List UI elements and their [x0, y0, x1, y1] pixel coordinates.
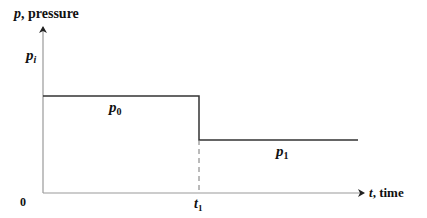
pressure-time-diagram: p, pressure t, time 0 pi p0 p1 t1: [0, 0, 427, 218]
p0-label: p0: [107, 99, 122, 117]
y-axis-label: p, pressure: [13, 6, 79, 21]
pressure-step-curve: [43, 96, 358, 140]
t1-label: t1: [194, 196, 203, 213]
pi-label: pi: [24, 47, 37, 65]
origin-label: 0: [20, 195, 26, 209]
p1-label: p1: [274, 143, 289, 161]
x-axis-label: t, time: [369, 185, 404, 200]
